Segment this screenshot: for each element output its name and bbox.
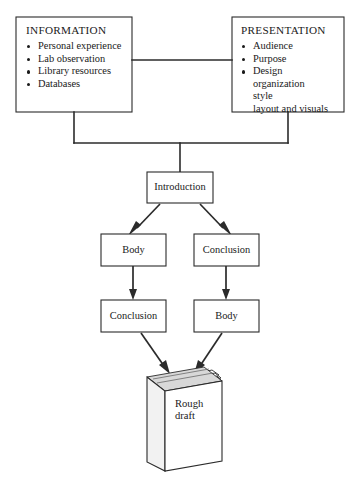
arrow-body-to-conclusion-left-head: [129, 289, 137, 300]
list-item: Purpose: [241, 53, 341, 66]
arrow-conclusion-to-body-right-head: [222, 289, 230, 300]
information-panel-content: INFORMATION Personal experience Lab obse…: [26, 24, 130, 90]
arrow-body-right-to-draft: [200, 333, 222, 366]
rough-draft-label-line1: Rough: [175, 398, 203, 410]
presentation-sublist: organization style layout and visuals: [241, 78, 341, 116]
list-item: Databases: [26, 78, 130, 91]
list-item: Audience: [241, 40, 341, 53]
introduction-label: Introduction: [147, 181, 213, 192]
presentation-heading: PRESENTATION: [241, 24, 341, 36]
rough-draft-label-line2: draft: [175, 410, 203, 422]
body-right-label: Body: [194, 310, 259, 321]
conclusion-left-label: Conclusion: [101, 310, 166, 321]
list-item: Library resources: [26, 65, 130, 78]
arrow-introduction-to-body-left: [137, 204, 160, 228]
list-item: layout and visuals: [253, 103, 341, 116]
flowchart-diagram: INFORMATION Personal experience Lab obse…: [0, 0, 358, 491]
information-list: Personal experience Lab observation Libr…: [26, 40, 130, 90]
book-cover: [165, 381, 222, 471]
information-heading: INFORMATION: [26, 24, 130, 36]
rough-draft-label: Rough draft: [175, 398, 203, 423]
list-item: Personal experience: [26, 40, 130, 53]
book-spine: [147, 377, 165, 471]
list-item: style: [253, 90, 341, 103]
presentation-list: Audience Purpose Design: [241, 40, 341, 78]
conclusion-right-label: Conclusion: [194, 244, 259, 255]
list-item: Design: [241, 65, 341, 78]
presentation-panel-content: PRESENTATION Audience Purpose Design org…: [241, 24, 341, 116]
list-item: Lab observation: [26, 53, 130, 66]
body-left-label: Body: [101, 244, 166, 255]
arrow-introduction-to-conclusion-right: [200, 204, 223, 228]
list-item: organization: [253, 78, 341, 91]
arrow-conclusion-left-to-draft: [141, 333, 164, 366]
